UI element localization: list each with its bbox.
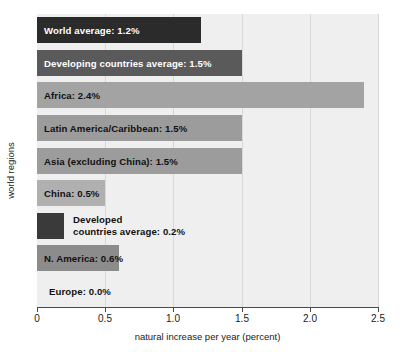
bar[interactable] xyxy=(37,213,64,239)
x-axis-title: natural increase per year (percent) xyxy=(37,331,378,342)
bar-row[interactable]: Developing countries average: 1.5% xyxy=(37,50,378,76)
x-axis-tick xyxy=(173,307,174,312)
x-axis-tick xyxy=(378,307,379,312)
x-axis-tick xyxy=(105,307,106,312)
plot-area: World average: 1.2%Developing countries … xyxy=(37,14,378,307)
bar-label: World average: 1.2% xyxy=(44,17,140,43)
bar-row[interactable]: World average: 1.2% xyxy=(37,17,378,43)
bar-label: Developing countries average: 1.5% xyxy=(44,50,212,76)
y-axis-title: world regions xyxy=(0,120,20,220)
bar-row[interactable]: Developedcountries average: 0.2% xyxy=(37,213,378,239)
x-axis-tick-label: 1.5 xyxy=(235,313,249,324)
bar-label: Europe: 0.0% xyxy=(49,278,111,304)
bar-label-line-2: countries average: 0.2% xyxy=(73,226,185,238)
bar-label: Developedcountries average: 0.2% xyxy=(73,214,185,237)
bar-label: N. America: 0.6% xyxy=(44,245,123,271)
x-axis-tick xyxy=(242,307,243,312)
x-axis-tick xyxy=(37,307,38,312)
bar-row[interactable]: Latin America/Caribbean: 1.5% xyxy=(37,115,378,141)
bar-label: Asia (excluding China): 1.5% xyxy=(44,148,178,174)
x-axis-tick-label: 2.5 xyxy=(371,313,385,324)
x-axis-tick-label: 0 xyxy=(34,313,40,324)
bar-row[interactable]: N. America: 0.6% xyxy=(37,245,378,271)
x-axis-tick-label: 1.0 xyxy=(166,313,180,324)
bar-label: China: 0.5% xyxy=(44,180,99,206)
bar-label-line-1: Developed xyxy=(73,214,185,226)
y-axis-title-text: world regions xyxy=(5,142,16,199)
gridline xyxy=(378,14,379,307)
x-axis-tick xyxy=(310,307,311,312)
bar-chart-figure: world regions World average: 1.2%Develop… xyxy=(0,0,405,352)
bar-row[interactable]: Europe: 0.0% xyxy=(37,278,378,304)
bar-label: Africa: 2.4% xyxy=(44,82,100,108)
x-axis-tick-label: 2.0 xyxy=(303,313,317,324)
bar-row[interactable]: China: 0.5% xyxy=(37,180,378,206)
bar-row[interactable]: Asia (excluding China): 1.5% xyxy=(37,148,378,174)
x-axis-line xyxy=(37,307,378,308)
bar-row[interactable]: Africa: 2.4% xyxy=(37,82,378,108)
bar-label: Latin America/Caribbean: 1.5% xyxy=(44,115,187,141)
x-axis-tick-label: 0.5 xyxy=(98,313,112,324)
